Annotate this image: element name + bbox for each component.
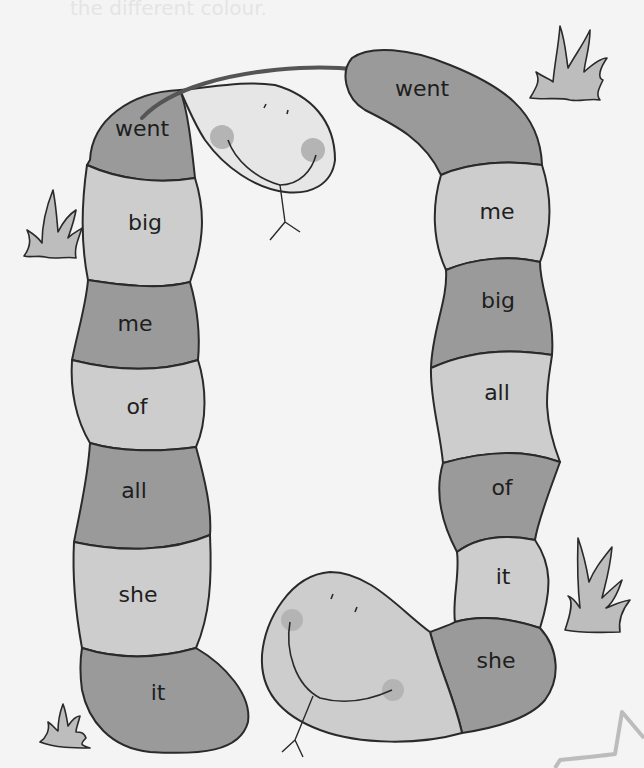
left-word-1: went (115, 116, 169, 141)
left-word-7: it (151, 680, 166, 705)
left-snake-head (180, 83, 335, 240)
left-word-2: big (128, 210, 162, 235)
right-word-1: went (395, 76, 449, 101)
cheek-left (281, 609, 303, 631)
right-word-7: she (477, 648, 516, 673)
grass-bottom-right-icon (565, 538, 630, 633)
star-icon (555, 712, 644, 768)
left-snake (72, 90, 249, 753)
left-word-5: all (121, 478, 147, 503)
right-segment-went[interactable] (346, 50, 542, 175)
left-word-6: she (119, 582, 158, 607)
cheek-right (301, 138, 325, 162)
cheek-right (382, 679, 404, 701)
right-snake-head (262, 572, 462, 757)
right-word-6: it (496, 564, 511, 589)
right-word-2: me (480, 199, 515, 224)
grass-left-icon (24, 190, 82, 258)
grass-top-right-icon (530, 26, 607, 101)
left-word-4: of (126, 394, 148, 419)
grass-bottom-left-icon (40, 704, 90, 748)
snake-worksheet-illustration: went big me of all she it went me big al… (0, 0, 644, 768)
left-word-3: me (118, 311, 153, 336)
right-word-4: all (484, 380, 510, 405)
right-segment-all[interactable] (431, 351, 560, 463)
right-word-5: of (491, 475, 513, 500)
right-word-3: big (481, 288, 515, 313)
